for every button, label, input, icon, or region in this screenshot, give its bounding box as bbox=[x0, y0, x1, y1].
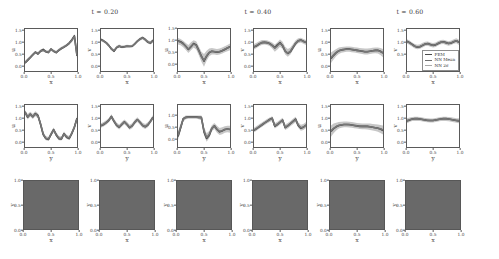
x-axis-label: y bbox=[278, 155, 281, 161]
y-tick-label: 1.0 bbox=[91, 116, 98, 121]
x-tick-label: 1.0 bbox=[382, 232, 389, 237]
y-tick-mark bbox=[22, 30, 24, 31]
x-tick-label: 1.0 bbox=[457, 150, 464, 155]
y-tick-mark bbox=[328, 106, 330, 107]
y-tick-mark bbox=[327, 180, 329, 181]
heatmap-panel-r3c2: 0.00.51.00.00.51.0yx bbox=[99, 180, 155, 230]
figure-canvas: t = 0.20 t = 0.40 t = 0.60 0.00.51.01.50… bbox=[0, 0, 499, 259]
y-axis-label: y bbox=[162, 203, 168, 206]
y-tick-mark bbox=[175, 115, 177, 116]
y-tick-label: 0.5 bbox=[14, 203, 21, 208]
x-tick-label: 1.0 bbox=[75, 74, 82, 79]
y-tick-label: 0.0 bbox=[397, 140, 404, 145]
x-tick-mark bbox=[433, 230, 434, 232]
x-tick-mark bbox=[154, 72, 155, 74]
heatmap-surface bbox=[23, 180, 79, 230]
x-tick-mark bbox=[231, 148, 232, 150]
y-tick-mark bbox=[98, 66, 100, 67]
y-tick-label: 1.0 bbox=[320, 178, 327, 183]
y-tick-label: 0.5 bbox=[320, 203, 327, 208]
x-tick-mark bbox=[100, 72, 101, 74]
x-axis-label: y bbox=[431, 155, 434, 161]
y-tick-label: 1.0 bbox=[14, 178, 21, 183]
x-tick-mark bbox=[330, 72, 331, 74]
y-tick-mark bbox=[22, 118, 24, 119]
y-tick-label: 1.0 bbox=[321, 40, 328, 45]
heatmap-panel-r3c4: 0.00.51.00.00.51.0yx bbox=[252, 180, 308, 230]
y-tick-mark bbox=[174, 180, 176, 181]
uncertainty-band bbox=[178, 38, 230, 67]
x-tick-mark bbox=[127, 148, 128, 150]
y-tick-mark bbox=[97, 205, 99, 206]
y-tick-mark bbox=[404, 106, 406, 107]
curve-group bbox=[101, 105, 153, 147]
x-tick-label: 0.0 bbox=[402, 232, 409, 237]
y-tick-label: 1.0 bbox=[168, 37, 175, 42]
y-tick-mark bbox=[98, 54, 100, 55]
y-tick-label: 1.5 bbox=[91, 104, 98, 109]
y-tick-label: 0.0 bbox=[15, 140, 22, 145]
plot-panel-r1c4: 0.00.51.01.50.00.51.0vx bbox=[253, 28, 307, 72]
x-tick-mark bbox=[385, 230, 386, 232]
x-axis-label: x bbox=[431, 237, 434, 243]
x-tick-mark bbox=[204, 148, 205, 150]
curve-group bbox=[254, 105, 306, 147]
plot-panel-r2c5: 0.00.51.01.50.00.51.0uy bbox=[330, 104, 384, 148]
x-tick-mark bbox=[177, 72, 178, 74]
x-tick-mark bbox=[51, 230, 52, 232]
axes-frame bbox=[24, 104, 78, 148]
y-tick-mark bbox=[404, 118, 406, 119]
x-tick-mark bbox=[406, 148, 407, 150]
y-tick-label: 0.5 bbox=[244, 52, 251, 57]
x-axis-label: x bbox=[431, 79, 434, 85]
y-tick-label: 1.0 bbox=[244, 40, 251, 45]
x-tick-label: 0.0 bbox=[21, 74, 28, 79]
y-tick-label: 0.0 bbox=[168, 61, 175, 66]
y-tick-label: 0.5 bbox=[321, 52, 328, 57]
x-tick-label: 0.0 bbox=[97, 150, 104, 155]
x-tick-mark bbox=[330, 148, 331, 150]
x-axis-label: x bbox=[202, 237, 205, 243]
x-tick-mark bbox=[127, 230, 128, 232]
x-tick-label: 1.0 bbox=[304, 150, 311, 155]
y-tick-mark bbox=[175, 28, 177, 29]
y-tick-mark bbox=[175, 51, 177, 52]
heatmap-panel-r3c3: 0.00.51.00.00.51.0yx bbox=[176, 180, 232, 230]
x-tick-mark bbox=[460, 148, 461, 150]
y-tick-mark bbox=[98, 118, 100, 119]
plot-panel-r2c4: 0.00.51.01.50.00.51.0vy bbox=[253, 104, 307, 148]
heatmap-surface bbox=[252, 180, 308, 230]
x-axis-label: x bbox=[125, 79, 128, 85]
x-tick-label: 1.0 bbox=[458, 232, 465, 237]
x-tick-label: 0.0 bbox=[249, 232, 256, 237]
y-tick-label: 1.5 bbox=[321, 104, 328, 109]
x-tick-mark bbox=[357, 148, 358, 150]
y-tick-mark bbox=[97, 180, 99, 181]
y-axis-label: v bbox=[86, 48, 92, 51]
y-tick-label: 0.0 bbox=[168, 137, 175, 142]
plot-panel-r1c1: 0.00.51.01.50.00.51.0ux bbox=[24, 28, 78, 72]
y-tick-mark bbox=[251, 54, 253, 55]
y-tick-mark bbox=[328, 66, 330, 67]
x-tick-label: 0.0 bbox=[173, 232, 180, 237]
y-tick-label: 0.0 bbox=[244, 140, 251, 145]
x-tick-label: 0.0 bbox=[250, 74, 257, 79]
y-tick-label: 1.0 bbox=[90, 178, 97, 183]
y-tick-label: 0.5 bbox=[167, 203, 174, 208]
y-tick-mark bbox=[403, 180, 405, 181]
x-tick-label: 1.0 bbox=[305, 232, 312, 237]
legend-swatch bbox=[425, 65, 432, 66]
x-tick-mark bbox=[204, 230, 205, 232]
x-tick-label: 1.0 bbox=[228, 150, 235, 155]
curve-group bbox=[25, 105, 77, 147]
x-tick-label: 0.0 bbox=[20, 232, 27, 237]
x-tick-mark bbox=[155, 230, 156, 232]
y-tick-mark bbox=[328, 54, 330, 55]
uncertainty-band bbox=[331, 122, 383, 137]
x-tick-label: 0.0 bbox=[97, 74, 104, 79]
heatmap-surface bbox=[329, 180, 385, 230]
column-title-t2: t = 0.40 bbox=[193, 8, 323, 15]
y-tick-mark bbox=[404, 54, 406, 55]
x-tick-mark bbox=[127, 72, 128, 74]
axes-frame bbox=[100, 28, 154, 72]
